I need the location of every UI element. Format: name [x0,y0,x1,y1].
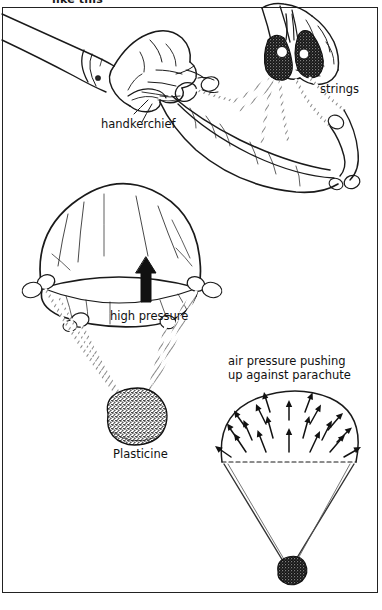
label-air-pressure-line2: up against parachute [228,368,351,382]
label-handkerchief: handkerchief [101,117,176,131]
label-strings: strings [320,82,359,96]
label-plasticine: Plasticine [113,447,168,461]
label-high-pressure: high pressure [110,309,188,323]
label-air-pressure-line1: air pressure pushing [228,354,351,368]
label-air-pressure: air pressure pushing up against parachut… [228,354,351,383]
figure-page: like this [0,0,382,610]
